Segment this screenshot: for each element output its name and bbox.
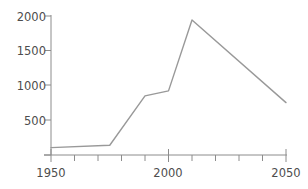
x-tick-label: 1950 [28,166,74,180]
y-tick-label: 2000 [17,10,46,24]
y-tick-label: 1000 [17,79,46,93]
y-tick-label: 500 [24,114,46,128]
x-tick-label: 2000 [145,166,191,180]
y-tick-label: 1500 [17,44,46,58]
line-chart: 2000 1500 1000 500 1950 2000 2050 [0,0,308,189]
chart-plot-area [0,0,308,189]
data-series-line [51,20,286,148]
x-tick-label: 2050 [263,166,308,180]
